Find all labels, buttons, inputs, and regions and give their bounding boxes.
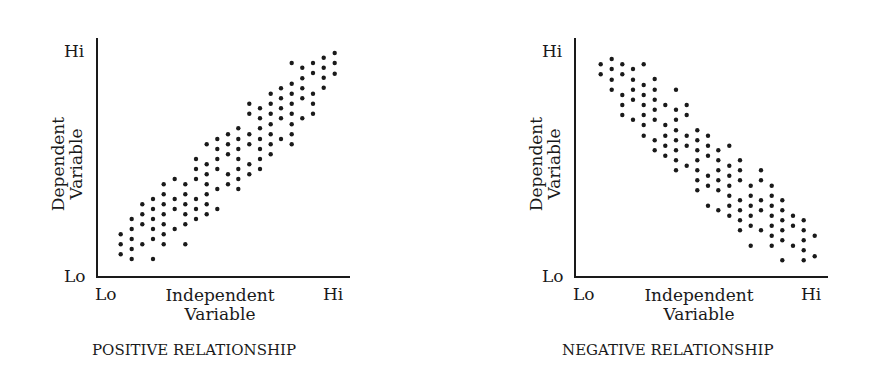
data-point: [183, 222, 187, 226]
positive-y-lo-label: Lo: [64, 268, 86, 285]
data-point: [333, 51, 337, 55]
data-point: [247, 102, 251, 106]
data-point: [226, 142, 230, 146]
positive-ylabel-line1: Dependent: [49, 109, 67, 219]
data-point: [236, 167, 240, 171]
data-point: [749, 204, 753, 208]
data-point: [802, 218, 806, 222]
data-point: [215, 167, 219, 171]
data-point: [226, 132, 230, 136]
negative-x-axis-label: Independent Variable: [629, 286, 769, 324]
data-point: [695, 148, 699, 152]
data-point: [610, 88, 614, 92]
data-point: [205, 142, 209, 146]
negative-y-hi-label: Hi: [542, 43, 562, 60]
data-point: [610, 67, 614, 71]
data-point: [322, 86, 326, 90]
data-point: [685, 134, 689, 138]
data-point: [695, 138, 699, 142]
data-point: [663, 103, 667, 107]
data-point: [610, 78, 614, 82]
data-point: [706, 134, 710, 138]
data-point: [610, 57, 614, 61]
data-point: [749, 244, 753, 248]
data-point: [620, 103, 624, 107]
data-point: [215, 137, 219, 141]
data-point: [130, 257, 134, 261]
data-point: [311, 102, 315, 106]
data-point: [770, 194, 774, 198]
data-point: [716, 208, 720, 212]
data-point: [183, 242, 187, 246]
data-point: [162, 232, 166, 236]
data-point: [631, 98, 635, 102]
data-point: [322, 76, 326, 80]
data-point: [119, 252, 123, 256]
data-point: [802, 258, 806, 262]
data-point: [151, 227, 155, 231]
data-point: [151, 197, 155, 201]
data-point: [631, 88, 635, 92]
data-point: [258, 137, 262, 141]
data-point: [674, 158, 678, 162]
data-point: [247, 112, 251, 116]
data-point: [311, 61, 315, 65]
data-point: [194, 207, 198, 211]
data-point: [300, 86, 304, 90]
data-point: [215, 207, 219, 211]
scatter-plots-canvas: [0, 0, 878, 390]
data-point: [706, 184, 710, 188]
data-point: [215, 147, 219, 151]
data-point: [162, 212, 166, 216]
data-point: [183, 202, 187, 206]
data-point: [258, 167, 262, 171]
data-point: [770, 204, 774, 208]
data-point: [620, 113, 624, 117]
data-point: [813, 234, 817, 238]
positive-y-axis-label: Dependent Variable: [49, 109, 87, 219]
data-point: [642, 134, 646, 138]
data-point: [279, 96, 283, 100]
data-point: [727, 184, 731, 188]
data-point: [727, 194, 731, 198]
data-point: [791, 244, 795, 248]
positive-chart-points: [119, 51, 337, 261]
data-point: [279, 86, 283, 90]
data-point: [631, 118, 635, 122]
data-point: [183, 182, 187, 186]
data-point: [738, 158, 742, 162]
data-point: [333, 61, 337, 65]
negative-x-hi-label: Hi: [801, 286, 821, 303]
data-point: [300, 66, 304, 70]
data-point: [236, 126, 240, 130]
data-point: [642, 103, 646, 107]
data-point: [300, 76, 304, 80]
data-point: [130, 227, 134, 231]
data-point: [738, 198, 742, 202]
negative-chart-axes: [574, 38, 828, 277]
data-point: [716, 188, 720, 192]
data-point: [738, 218, 742, 222]
data-point: [749, 194, 753, 198]
data-point: [194, 197, 198, 201]
data-point: [780, 198, 784, 202]
data-point: [151, 207, 155, 211]
data-point: [258, 147, 262, 151]
data-point: [140, 242, 144, 246]
positive-x-axis-label: Independent Variable: [150, 286, 290, 324]
data-point: [173, 197, 177, 201]
data-point: [695, 178, 699, 182]
data-point: [130, 217, 134, 221]
negative-x-lo-label: Lo: [573, 286, 595, 303]
data-point: [780, 228, 784, 232]
data-point: [290, 102, 294, 106]
data-point: [194, 167, 198, 171]
data-point: [151, 237, 155, 241]
negative-chart-caption: NEGATIVE RELATIONSHIP: [562, 343, 774, 358]
data-point: [215, 187, 219, 191]
data-point: [130, 247, 134, 251]
data-point: [685, 113, 689, 117]
data-point: [759, 168, 763, 172]
data-point: [322, 56, 326, 60]
data-point: [173, 227, 177, 231]
